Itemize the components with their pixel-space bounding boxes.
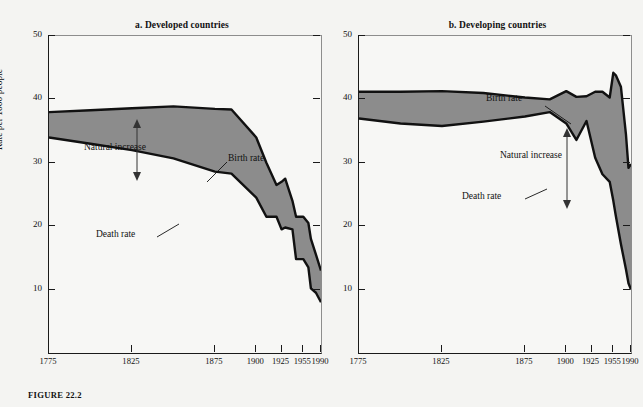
y-axis-tick-label: 30 [20,156,42,166]
x-axis-tick-label: 1775 [32,356,64,366]
y-axis-tick-label: 20 [20,219,42,229]
panel-b-title: b. Developing countries [330,20,643,30]
death-rate-leader [157,224,179,237]
natural-increase-band [359,73,631,290]
natural-increase-band [49,106,321,302]
death-rate-label: Death rate [96,229,135,239]
figure-container: a. Developed countries Rate per 1000 peo… [0,0,643,407]
panel-a-title: a. Developed countries [0,20,330,30]
x-axis-tick-mark [302,345,303,352]
x-axis-tick-mark [214,345,215,352]
x-axis-tick-mark [441,345,442,352]
chart-panel-developing: b. Developing countries 1020304050177518… [330,0,643,375]
x-axis-tick-label: 1825 [115,356,147,366]
x-axis-tick-mark [320,345,321,352]
birth-rate-label: Birth rate [228,153,264,163]
y-axis-tick-label: 40 [20,92,42,102]
arrow-head-icon [563,200,571,209]
arrow-head-icon [133,172,141,181]
series-canvas [49,36,321,353]
y-axis-tick-mark [623,225,630,226]
y-axis-tick-label: 50 [20,29,42,39]
y-axis-tick-mark [48,98,55,99]
x-axis-tick-mark [612,345,613,352]
x-axis-tick-mark [630,345,631,352]
y-axis-tick-mark [358,98,365,99]
y-axis-tick-mark [623,98,630,99]
x-axis-tick-mark [565,345,566,352]
x-axis-tick-mark [358,345,359,352]
y-axis-tick-mark [623,162,630,163]
y-axis-tick-label: 10 [20,283,42,293]
birth-rate-label: Birth rate [486,93,522,103]
x-axis-tick-label: 1875 [198,356,230,366]
y-axis-tick-mark [313,289,320,290]
y-axis-tick-mark [48,225,55,226]
x-axis-tick-mark [255,345,256,352]
x-axis-tick-label: 1775 [342,356,374,366]
y-axis-tick-mark [358,289,365,290]
x-axis-tick-label: 1825 [425,356,457,366]
y-axis-tick-label: 30 [330,156,352,166]
y-axis-tick-mark [48,289,55,290]
y-axis-tick-mark [623,35,630,36]
plot-area-developed [48,35,322,354]
y-axis-tick-mark [313,35,320,36]
y-axis-tick-label: 40 [330,92,352,102]
x-axis-tick-mark [131,345,132,352]
natural-increase-label: Natural increase [84,142,146,152]
y-axis-tick-mark [623,289,630,290]
y-axis-title: Rate per 1000 people [0,69,4,150]
y-axis-tick-mark [358,162,365,163]
y-axis-tick-mark [48,162,55,163]
y-axis-tick-mark [313,98,320,99]
x-axis-tick-mark [48,345,49,352]
chart-panel-developed: a. Developed countries Rate per 1000 peo… [0,0,330,375]
y-axis-tick-label: 20 [330,219,352,229]
x-axis-tick-mark [591,345,592,352]
x-axis-tick-mark [524,345,525,352]
death-rate-label: Death rate [462,191,501,201]
death-rate-leader [525,189,547,199]
y-axis-tick-mark [48,35,55,36]
x-axis-tick-label: 1990 [614,356,643,366]
y-axis-tick-label: 50 [330,29,352,39]
y-axis-tick-mark [313,225,320,226]
y-axis-tick-mark [313,162,320,163]
y-axis-tick-mark [358,35,365,36]
natural-increase-label: Natural increase [500,150,562,160]
x-axis-tick-label: 1875 [508,356,540,366]
y-axis-tick-label: 10 [330,283,352,293]
figure-caption: FIGURE 22.2 [28,390,82,400]
x-axis-tick-mark [281,345,282,352]
y-axis-tick-mark [358,225,365,226]
